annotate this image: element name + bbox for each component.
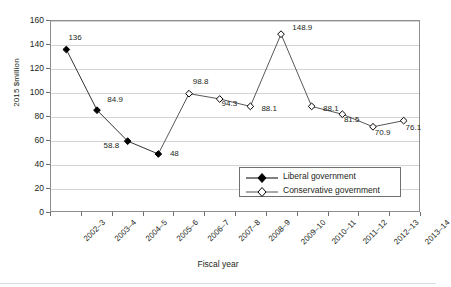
x-tick-label: 2008–9: [267, 218, 292, 243]
legend-item-liberal: Liberal government: [240, 169, 400, 183]
legend-label-liberal: Liberal government: [283, 171, 356, 181]
legend-label-conservative: Conservative government: [283, 185, 380, 195]
x-tick-mark: [173, 212, 174, 216]
x-tick-mark: [204, 212, 205, 216]
data-point-label: 76.1: [406, 124, 422, 132]
gridline: [51, 21, 419, 22]
series-line: [189, 34, 404, 127]
x-tick-mark: [420, 212, 421, 216]
x-tick-mark: [112, 212, 113, 216]
plot-area: 13684.958.84898.894.388.1148.988.181.570…: [50, 20, 420, 212]
data-point-label: 70.9: [375, 129, 391, 137]
x-tick-mark: [328, 212, 329, 216]
gridline: [51, 69, 419, 70]
open-diamond-icon: [245, 184, 279, 196]
y-tick-label: 40: [4, 160, 44, 169]
x-tick-mark: [297, 212, 298, 216]
data-point-label: 84.9: [107, 96, 123, 104]
x-tick-label: 2007–8: [236, 218, 261, 243]
x-tick-label: 2009–10: [299, 218, 327, 246]
x-tick-mark: [235, 212, 236, 216]
x-tick-label: 2013–14: [423, 218, 451, 246]
x-tick-mark: [81, 212, 82, 216]
x-tick-mark: [389, 212, 390, 216]
chart-legend: Liberal government Conservative governme…: [239, 167, 401, 197]
open-diamond-marker: [278, 31, 285, 38]
x-tick-label: 2004–5: [144, 218, 169, 243]
clipped-title: [0, 0, 436, 3]
x-tick-label: 2010–11: [330, 218, 358, 246]
y-tick-label: 140: [4, 40, 44, 49]
x-tick-label: 2002–3: [82, 218, 107, 243]
data-point-label: 98.8: [193, 78, 209, 86]
x-axis-title: Fiscal year: [0, 259, 436, 269]
x-tick-mark: [50, 212, 51, 216]
legend-item-conservative: Conservative government: [240, 183, 400, 197]
y-tick-label: 20: [4, 184, 44, 193]
x-tick-label: 2006–7: [206, 218, 231, 243]
filled-diamond-marker: [94, 107, 101, 114]
x-tick-mark: [143, 212, 144, 216]
open-diamond-marker: [308, 103, 315, 110]
x-tick-label: 2012–13: [392, 218, 420, 246]
data-point-label: 88.1: [323, 105, 339, 113]
x-tick-label: 2011–12: [361, 218, 389, 246]
filled-diamond-icon: [245, 170, 279, 182]
y-tick-label: 160: [4, 16, 44, 25]
gridline: [51, 93, 419, 94]
page-edge-line: [0, 283, 436, 284]
gridline: [51, 165, 419, 166]
data-point-label: 136: [68, 34, 81, 42]
data-point-label: 48: [170, 150, 179, 158]
series-bridge-line: [158, 94, 189, 154]
y-tick-label: 120: [4, 64, 44, 73]
filled-diamond-marker: [155, 151, 162, 158]
y-tick-label: 0: [4, 208, 44, 217]
y-tick-label: 60: [4, 136, 44, 145]
x-tick-label: 2003–4: [113, 218, 138, 243]
data-point-label: 58.8: [104, 142, 120, 150]
x-tick-label: 2005–6: [175, 218, 200, 243]
gridline: [51, 45, 419, 46]
x-tick-mark: [358, 212, 359, 216]
data-point-label: 148.9: [292, 24, 312, 32]
data-point-label: 94.3: [222, 100, 238, 108]
data-point-label: 88.1: [261, 105, 277, 113]
gridline: [51, 117, 419, 118]
x-tick-mark: [266, 212, 267, 216]
y-tick-label: 80: [4, 112, 44, 121]
open-diamond-marker: [247, 103, 254, 110]
y-tick-label: 100: [4, 88, 44, 97]
data-point-label: 81.5: [344, 116, 360, 124]
filled-diamond-marker: [63, 46, 70, 53]
